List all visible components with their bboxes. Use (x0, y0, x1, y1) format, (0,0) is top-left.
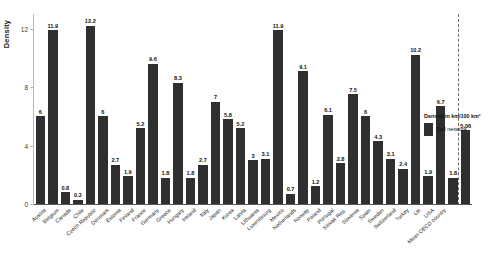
bar-value-label: 2.7 (199, 157, 207, 163)
bar[interactable] (36, 116, 46, 204)
bar-value-label: 6.1 (324, 107, 332, 113)
bar[interactable] (223, 119, 233, 204)
bar-value-label: 3.1 (387, 151, 395, 157)
bar-group: 3.1 (384, 14, 397, 204)
bar-value-label: 5.8 (224, 112, 232, 118)
y-axis-tick-label: 12 (6, 25, 28, 32)
bar-value-label: 9.6 (149, 56, 157, 62)
y-axis-tick-label: 0 (6, 201, 28, 208)
bar-value-label: 4.3 (374, 134, 382, 140)
bar[interactable] (386, 159, 396, 204)
bar[interactable] (298, 71, 308, 204)
x-axis-category-label: Japan (207, 207, 222, 221)
bar[interactable] (398, 169, 408, 204)
bar-group: 5.2 (234, 14, 247, 204)
bar[interactable] (373, 141, 383, 204)
bar[interactable] (311, 186, 321, 204)
bar[interactable] (61, 192, 71, 204)
bar[interactable] (236, 128, 246, 204)
bar-value-label: 6.7 (437, 99, 445, 105)
bar-value-label: 7 (214, 94, 217, 100)
bar-group: 6 (359, 14, 372, 204)
bar-group: 9.6 (147, 14, 160, 204)
bar-value-label: 9.1 (299, 64, 307, 70)
bar-value-label: 3.1 (262, 151, 270, 157)
x-axis-line (34, 204, 472, 205)
bar-value-label: 10.2 (410, 47, 421, 53)
bar[interactable] (423, 176, 433, 204)
legend-entry-rail-network[interactable]: Rail network (424, 123, 490, 136)
bar-group: 2.7 (109, 14, 122, 204)
bar[interactable] (123, 176, 133, 204)
bar-value-label: 5.2 (237, 121, 245, 127)
bar-value-label: 1.8 (449, 170, 457, 176)
x-axis-category-label: UK (413, 207, 423, 216)
bar-group: 2.8 (334, 14, 347, 204)
bar[interactable] (98, 116, 108, 204)
bar[interactable] (136, 128, 146, 204)
y-axis-title: Density (2, 0, 11, 74)
bar-group: 7 (209, 14, 222, 204)
bar-group: 6.7 (434, 14, 447, 204)
bar-value-label: 7.5 (349, 87, 357, 93)
bar[interactable] (48, 30, 58, 204)
bar[interactable] (261, 159, 271, 204)
bar-group: 2.7 (197, 14, 210, 204)
bar-value-label: 1.8 (187, 170, 195, 176)
bar[interactable] (86, 26, 96, 204)
bar[interactable] (161, 178, 171, 204)
bar-value-label: 1.9 (424, 169, 432, 175)
y-axis-tick-mark (30, 87, 33, 88)
bar[interactable] (111, 165, 121, 204)
bar[interactable] (361, 116, 371, 204)
bar-value-label: 0.3 (74, 192, 82, 198)
bar-value-label: 5.2 (136, 121, 144, 127)
bar[interactable] (286, 194, 296, 204)
bar[interactable] (148, 64, 158, 204)
legend-title: Density in km/100 km² (424, 113, 490, 120)
bar-value-label: 3 (251, 153, 254, 159)
bar-group: 3 (247, 14, 260, 204)
bar-group: 12.2 (84, 14, 97, 204)
bar-group: 7.5 (347, 14, 360, 204)
x-axis-category-label: Turkey (394, 207, 410, 222)
bar-group: 5.06 (459, 14, 472, 204)
bar-group: 8.3 (172, 14, 185, 204)
bar-group: 0.3 (72, 14, 85, 204)
y-axis-tick-label: 8 (6, 84, 28, 91)
bar[interactable] (448, 178, 458, 204)
x-axis-category-label: Korea (220, 207, 235, 221)
bar[interactable] (336, 163, 346, 204)
bar-value-label: 1.2 (312, 179, 320, 185)
y-axis-tick-mark (30, 146, 33, 147)
legend: Density in km/100 km² Rail network (424, 113, 490, 136)
bar[interactable] (323, 115, 333, 204)
bar-value-label: 2.8 (337, 156, 345, 162)
bar-chart: Density 04812 611.90.80.312.262.71.95.29… (0, 0, 491, 274)
bar[interactable] (211, 102, 221, 204)
legend-entry-label: Rail network (436, 126, 467, 132)
bar-group: 5.8 (222, 14, 235, 204)
bar[interactable] (273, 30, 283, 204)
bar[interactable] (173, 83, 183, 204)
bar-group: 1.8 (184, 14, 197, 204)
bar-group: 1.2 (309, 14, 322, 204)
bar-value-label: 8.3 (174, 75, 182, 81)
bar[interactable] (198, 165, 208, 204)
y-axis-tick-mark (30, 204, 33, 205)
bar[interactable] (186, 178, 196, 204)
y-axis-tick-label: 4 (6, 142, 28, 149)
bar-group: 11.9 (47, 14, 60, 204)
y-axis-tick-mark (30, 29, 33, 30)
bar[interactable] (73, 200, 83, 204)
bar[interactable] (348, 94, 358, 204)
bar-group: 4.3 (372, 14, 385, 204)
bar-group: 0.7 (284, 14, 297, 204)
bar-group: 10.2 (409, 14, 422, 204)
bar[interactable] (411, 55, 421, 204)
bar-value-label: 11.9 (47, 23, 58, 29)
bar-group: 11.9 (272, 14, 285, 204)
bar[interactable] (248, 160, 258, 204)
bar[interactable] (461, 130, 471, 204)
bar-group: 6 (34, 14, 47, 204)
